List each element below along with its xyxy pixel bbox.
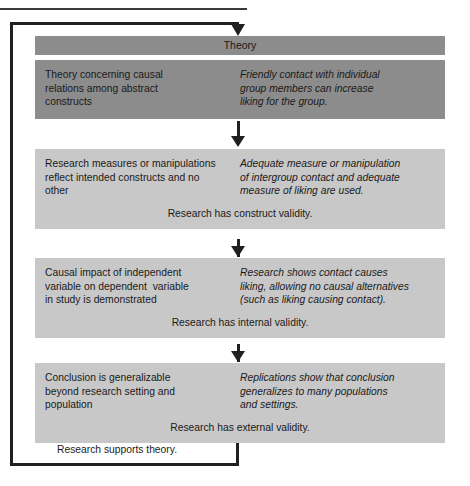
stage-theory-box: Theory concerning causal relations among… — [35, 60, 445, 119]
stage-construct-validity-conclusion: Research has construct validity. — [35, 198, 445, 230]
stage-construct-validity-left-column: Research measures or manipulations refle… — [35, 157, 240, 198]
feedback-loop-top-segment — [10, 22, 239, 25]
stage-theory-header: Theory — [35, 36, 445, 55]
stage-construct-validity-columns: Research measures or manipulations refle… — [35, 149, 445, 198]
stage-theory-right-text: Friendly contact with individual group m… — [240, 68, 439, 109]
stage-internal-validity-left-text: Causal impact of independent variable on… — [45, 266, 240, 307]
connector-1-arrowhead-icon — [231, 136, 245, 147]
feedback-loop-caption: Research supports theory. — [57, 443, 177, 457]
stage-external-validity-left-column: Conclusion is generalizable beyond resea… — [35, 371, 240, 412]
stage-external-validity-box: Conclusion is generalizable beyond resea… — [35, 363, 445, 443]
stage-external-validity-columns: Conclusion is generalizable beyond resea… — [35, 363, 445, 412]
connector-2-arrowhead-icon — [231, 246, 245, 257]
stage-external-validity-left-text: Conclusion is generalizable beyond resea… — [45, 371, 240, 412]
stage-theory-right-column: Friendly contact with individual group m… — [240, 68, 445, 109]
stage-theory-left-text: Theory concerning causal relations among… — [45, 68, 240, 109]
stage-external-validity-right-text: Replications show that conclusion genera… — [240, 371, 439, 412]
feedback-loop-left-segment — [10, 22, 13, 466]
stage-theory-left-column: Theory concerning causal relations among… — [35, 68, 240, 109]
stage-internal-validity-left-column: Causal impact of independent variable on… — [35, 266, 240, 307]
top-rule-divider — [0, 8, 247, 10]
stage-internal-validity-columns: Causal impact of independent variable on… — [35, 258, 445, 307]
connector-3-arrowhead-icon — [231, 351, 245, 362]
stage-external-validity-right-column: Replications show that conclusion genera… — [240, 371, 445, 412]
stage-construct-validity-right-text: Adequate measure or manipulation of inte… — [240, 157, 439, 198]
flowchart-canvas: Theory Theory concerning causal relation… — [0, 0, 470, 486]
stage-theory-columns: Theory concerning causal relations among… — [35, 60, 445, 119]
stage-internal-validity-right-text: Research shows contact causes liking, al… — [240, 266, 439, 307]
stage-internal-validity-right-column: Research shows contact causes liking, al… — [240, 266, 445, 307]
stage-construct-validity-right-column: Adequate measure or manipulation of inte… — [240, 157, 445, 198]
stage-internal-validity-conclusion: Research has internal validity. — [35, 307, 445, 339]
feedback-loop-bottom-segment — [10, 463, 239, 466]
stage-construct-validity-left-text: Research measures or manipulations refle… — [45, 157, 240, 198]
stage-external-validity-conclusion: Research has external validity. — [35, 412, 445, 444]
stage-internal-validity-box: Causal impact of independent variable on… — [35, 258, 445, 338]
stage-construct-validity-box: Research measures or manipulations refle… — [35, 149, 445, 229]
feedback-loop-arrowhead-icon — [231, 24, 245, 36]
